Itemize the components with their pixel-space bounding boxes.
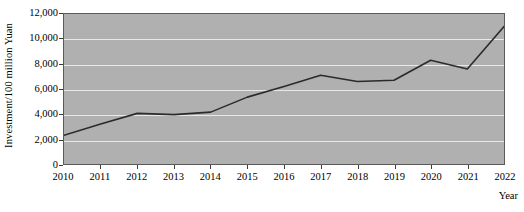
series-line-investment [64, 14, 504, 164]
x-tick-mark [395, 165, 396, 169]
x-tick-mark [431, 165, 432, 169]
y-tick-mark [59, 13, 63, 14]
y-tick-mark [59, 140, 63, 141]
chart-figure: Investment/100 million Yuan 02,0004,0006… [0, 0, 524, 212]
x-tick-mark [284, 165, 285, 169]
plot-area [63, 13, 505, 165]
y-tick-mark [59, 165, 63, 166]
x-tick-mark [174, 165, 175, 169]
y-tick-label: 6,000 [12, 84, 58, 95]
x-tick-mark [468, 165, 469, 169]
y-tick-label: 2,000 [12, 134, 58, 145]
x-tick-mark [137, 165, 138, 169]
x-axis-title: Year [499, 190, 518, 201]
y-tick-label: 8,000 [12, 58, 58, 69]
x-tick-label: 2022 [483, 172, 524, 183]
y-tick-mark [59, 89, 63, 90]
y-tick-label: 12,000 [12, 8, 58, 19]
y-tick-label: 0 [12, 160, 58, 171]
x-tick-mark [247, 165, 248, 169]
y-tick-mark [59, 38, 63, 39]
y-tick-mark [59, 64, 63, 65]
x-tick-mark [210, 165, 211, 169]
x-tick-mark [358, 165, 359, 169]
y-tick-label: 4,000 [12, 109, 58, 120]
x-tick-mark [100, 165, 101, 169]
y-tick-label: 10,000 [12, 33, 58, 44]
x-tick-mark [321, 165, 322, 169]
y-tick-mark [59, 114, 63, 115]
series-polyline [64, 27, 504, 136]
